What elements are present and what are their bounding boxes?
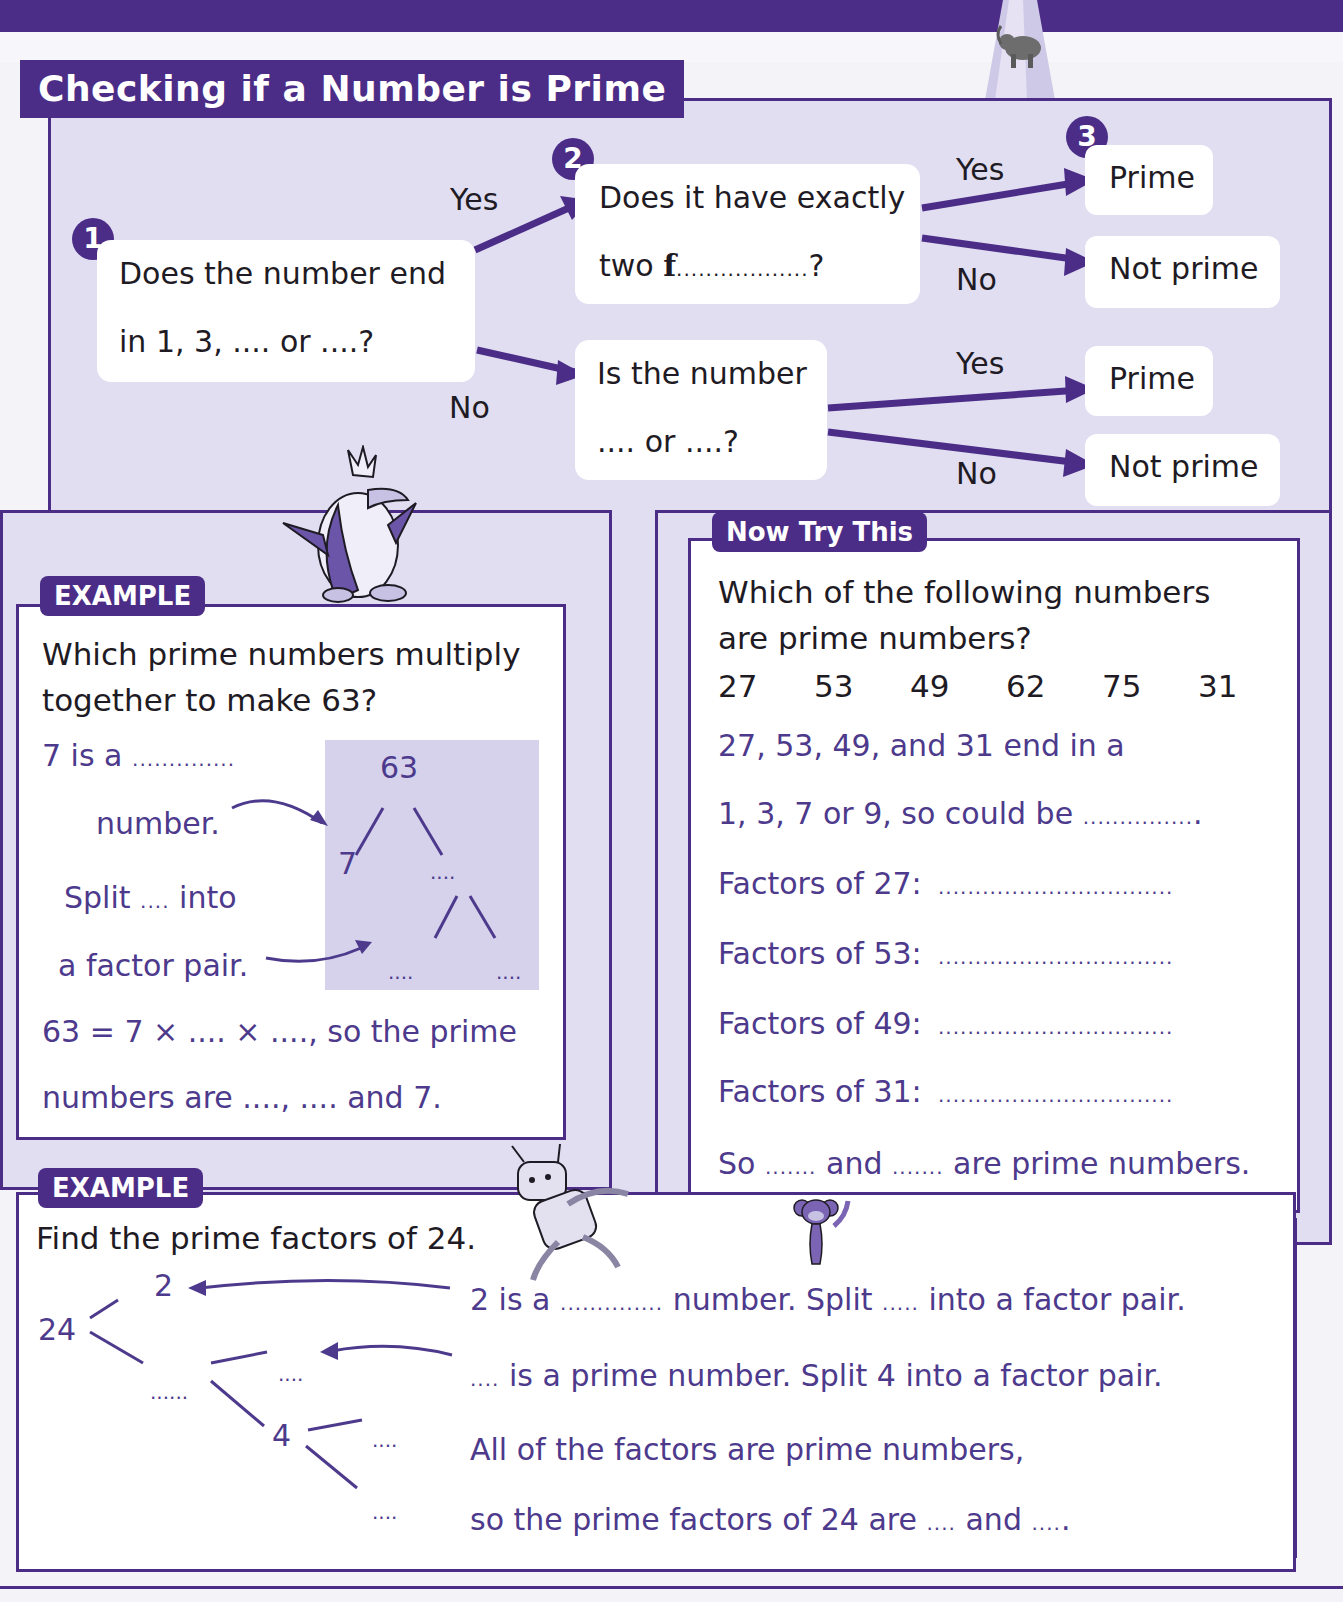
line4-blank-1[interactable]: .... [927,1511,956,1535]
factors-label: Factors of 49: [718,1006,938,1041]
step-1-line-2: in 1, 3, .... or ....? [119,324,374,359]
tree-24-third-left[interactable]: .... [372,1428,397,1452]
q1-answer-blank[interactable]: .................. [676,257,808,281]
q1-suffix: ? [809,248,825,283]
result-prime-2: Prime [1085,346,1213,416]
tree-24-first-right[interactable]: ...... [150,1380,188,1404]
conclusion-blank-2[interactable]: ....... [892,1155,944,1179]
tree-24-root: 24 [38,1312,76,1347]
factors-label: Factors of 31: [718,1074,938,1109]
example-2-line-4: so the prime factors of 24 are .... and … [470,1502,1070,1537]
conclusion-blank-1[interactable]: ....... [765,1155,817,1179]
step-2-question-2-box: Is the number .... or ....? [575,340,827,480]
factor-tree-24-lines [20,1270,460,1570]
q2-no-label: No [956,456,997,491]
example-2-line-2: .... is a prime number. Split 4 into a f… [470,1358,1163,1393]
line4-mid: and [965,1502,1021,1537]
example-1-conclusion-line-1: 63 = 7 × .... × ...., so the prime [42,1014,517,1049]
tree-24-first-left: 2 [154,1268,173,1303]
example-1-question-line-2: together to make 63? [42,682,377,718]
page-bottom-rule [0,1586,1343,1589]
factors-label: Factors of 27: [718,866,938,901]
tree-63-left: 7 [338,846,357,881]
step-b-blank[interactable]: .... [140,889,169,913]
example-1-step-a-line-1: 7 is a .............. [42,738,235,773]
example-1-step-a-line-2: number. [96,806,220,841]
factors-blank[interactable]: ................................ [938,945,1173,969]
result-not-prime-2: Not prime [1085,434,1280,506]
factors-blank[interactable]: ................................ [938,875,1173,899]
step-1-yes-label: Yes [450,182,498,217]
example-1-question-line-1: Which prime numbers multiply [42,636,520,672]
step-1-line-1: Does the number end [119,256,446,291]
number-item: 75 [1102,668,1198,704]
number-item: 27 [718,668,814,704]
step-2-q2-line-1: Is the number [597,356,807,391]
factors-row: Factors of 27:..........................… [718,866,1173,901]
q1-bold-letter: f [663,248,676,283]
step-2-q1-line-2: two f..................? [599,248,824,283]
hint-blank[interactable]: ............... [1083,805,1193,829]
factors-blank[interactable]: ................................ [938,1083,1173,1107]
factors-row: Factors of 53:..........................… [718,936,1173,971]
tree-63-right[interactable]: .... [430,860,455,884]
factors-row: Factors of 31:..........................… [718,1074,1173,1109]
step-1-question-box: Does the number end in 1, 3, .... or ...… [97,240,475,382]
tree-24-second-left[interactable]: .... [278,1362,303,1386]
step-2-question-1-box: Does it have exactly two f..............… [575,164,920,304]
now-try-this-tag: Now Try This [712,512,927,552]
line4-blank-2[interactable]: .... [1031,1511,1060,1535]
conclusion-mid: and [826,1146,882,1181]
hint-prefix: 1, 3, 7 or 9, so could be [718,796,1073,831]
factors-blank[interactable]: ................................ [938,1015,1173,1039]
example-2-question: Find the prime factors of 24. [36,1220,476,1256]
ntt-conclusion: So ....... and ....... are prime numbers… [718,1146,1250,1181]
step-2-q1-line-1: Does it have exactly [599,180,905,215]
step-a-text: 7 is a [42,738,123,773]
number-item: 53 [814,668,910,704]
result-prime-1: Prime [1085,145,1213,215]
ntt-question-line-1: Which of the following numbers [718,574,1210,610]
step-1-no-label: No [449,390,490,425]
tree-63-right-right[interactable]: .... [496,960,521,984]
line1-suffix: into a factor pair. [928,1282,1185,1317]
ntt-question-line-2: are prime numbers? [718,620,1032,656]
q1-yes-label: Yes [956,152,1004,187]
line1-mid: number. Split [673,1282,873,1317]
number-item: 31 [1198,668,1294,704]
tree-63-right-left[interactable]: .... [388,960,413,984]
line2-text: is a prime number. Split 4 into a factor… [509,1358,1163,1393]
example-2-tag: EXAMPLE [38,1168,203,1208]
line1-prefix: 2 is a [470,1282,551,1317]
q2-yes-label: Yes [956,346,1004,381]
hint-suffix: . [1193,796,1203,831]
example-1-step-b-line-1: Split .... into [64,880,237,915]
number-item: 62 [1006,668,1102,704]
factors-row: Factors of 49:..........................… [718,1006,1173,1041]
example-1-conclusion-line-2: numbers are ...., .... and 7. [42,1080,442,1115]
step-b-prefix: Split [64,880,131,915]
line4-suffix: . [1061,1502,1071,1537]
ntt-hint-line-1: 27, 53, 49, and 31 end in a [718,728,1125,763]
line2-blank[interactable]: .... [470,1367,499,1391]
line4-prefix: so the prime factors of 24 are [470,1502,917,1537]
conclusion-prefix: So [718,1146,755,1181]
line1-blank-1[interactable]: .............. [560,1291,663,1315]
step-2-q2-line-2: .... or ....? [597,424,739,459]
example-2-line-1: 2 is a .............. number. Split ....… [470,1282,1186,1317]
q1-no-label: No [956,262,997,297]
ntt-number-list: 27 53 49 62 75 31 [718,668,1294,704]
ntt-hint-line-2: 1, 3, 7 or 9, so could be ..............… [718,796,1203,831]
q1-prefix: two [599,248,663,283]
tree-24-third-right[interactable]: .... [372,1500,397,1524]
example-1-tag: EXAMPLE [40,576,205,616]
number-item: 49 [910,668,1006,704]
tree-63-root: 63 [380,750,418,785]
conclusion-suffix: are prime numbers. [953,1146,1250,1181]
tree-24-second-right: 4 [272,1418,291,1453]
result-not-prime-1: Not prime [1085,236,1280,308]
example-2-line-3: All of the factors are prime numbers, [470,1432,1024,1467]
line1-blank-2[interactable]: ..... [882,1291,919,1315]
factors-label: Factors of 53: [718,936,938,971]
